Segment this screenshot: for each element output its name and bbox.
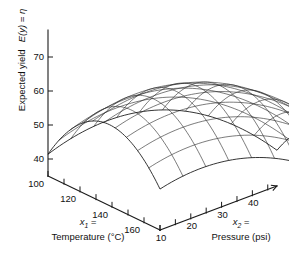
mesh-line [71,106,183,176]
x2-axis-var: x2 = [233,216,250,227]
mesh-line [104,85,289,132]
mesh-line [48,121,160,189]
mesh-line [254,111,289,194]
mesh-line [149,135,289,188]
x2-axis-quantity-text: Pressure (psi) [211,231,270,242]
mesh-line [185,84,289,162]
x1-axis-var: x1 = [80,216,97,227]
mesh-line [231,99,289,180]
x2-axis-tick-label: 10 [156,232,167,243]
y-axis-tick-label: 50 [33,119,44,130]
mesh-line [94,95,206,166]
x1-axis-var-sub: 1 [84,222,88,229]
x1-axis-tick-label: 120 [60,193,76,204]
mesh-line [126,102,289,152]
y-axis-title: Expected yieldE(y) = η [16,0,32,140]
mesh-line [163,82,275,158]
y-axis-tick-label: 70 [33,51,44,62]
axes [48,30,277,231]
response-surface-figure: 4050607010012014016010203040 Expected yi… [0,0,289,268]
x1-axis-title: x1 = Temperature (°C) [36,216,140,243]
x1-axis-tick-label: 100 [28,178,44,189]
mesh-line [160,158,289,213]
y-axis-title-equation: E(y) = η [16,9,27,43]
x1-axis-quantity-text: Temperature (°C) [52,231,125,242]
y-axis-tick-label: 60 [33,85,44,96]
y-axis-tick-label: 40 [33,153,44,164]
x2-axis-tick-label: 40 [248,197,259,208]
x2-axis-var-sub: 2 [237,222,241,229]
x2-axis-title: x2 = Pressure (psi) [193,216,289,243]
y-axis-title-text: Expected yield [16,49,27,111]
